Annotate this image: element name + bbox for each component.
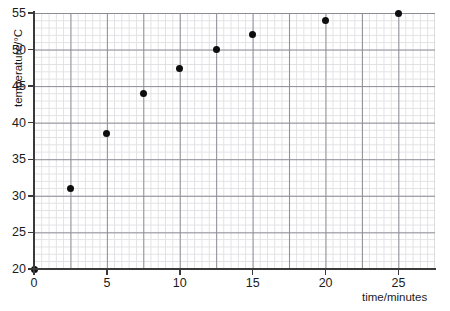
scatter-chart: 2025303540455055 0510152025 temperature/… xyxy=(0,0,450,311)
y-tick-label-30: 30 xyxy=(0,190,26,203)
y-tick-35 xyxy=(28,159,34,160)
data-point xyxy=(322,17,329,24)
x-axis-title: time/minutes xyxy=(362,291,427,303)
x-tick-label-25: 25 xyxy=(384,277,414,290)
y-tick-45 xyxy=(28,85,34,86)
x-tick-15 xyxy=(252,269,253,275)
data-point xyxy=(213,46,220,53)
x-tick-label-10: 10 xyxy=(165,277,195,290)
data-point xyxy=(395,10,402,17)
y-tick-55 xyxy=(28,12,34,13)
x-tick-25 xyxy=(398,269,399,275)
x-tick-10 xyxy=(179,269,180,275)
x-tick-0 xyxy=(33,269,34,275)
plot-area xyxy=(34,13,435,269)
y-tick-label-35: 35 xyxy=(0,153,26,166)
x-tick-label-20: 20 xyxy=(311,277,341,290)
y-tick-25 xyxy=(28,232,34,233)
x-tick-label-0: 0 xyxy=(19,277,49,290)
y-tick-40 xyxy=(28,122,34,123)
y-tick-30 xyxy=(28,195,34,196)
y-tick-label-20: 20 xyxy=(0,263,26,276)
x-axis-line xyxy=(33,268,436,270)
x-tick-label-15: 15 xyxy=(238,277,268,290)
x-tick-label-5: 5 xyxy=(92,277,122,290)
data-point xyxy=(140,90,147,97)
x-tick-20 xyxy=(325,269,326,275)
y-axis-title: temperature/°C xyxy=(12,13,24,123)
data-point xyxy=(67,185,74,192)
grid-major xyxy=(34,13,435,269)
y-tick-label-25: 25 xyxy=(0,226,26,239)
y-tick-50 xyxy=(28,49,34,50)
x-tick-5 xyxy=(106,269,107,275)
